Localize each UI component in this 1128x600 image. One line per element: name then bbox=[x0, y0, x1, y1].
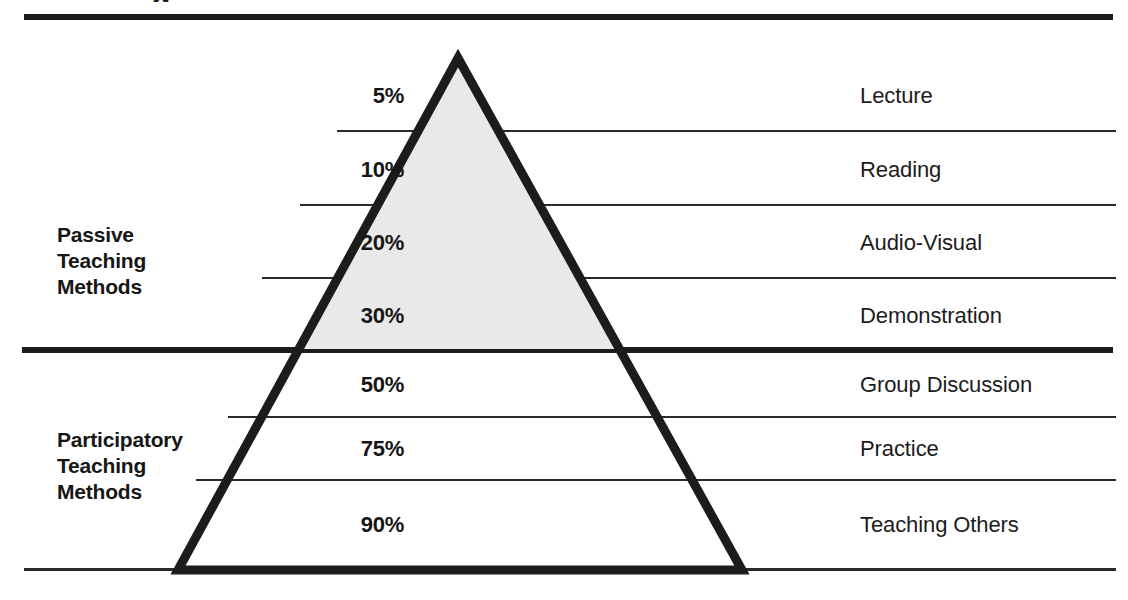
retention-percent: 30% bbox=[361, 303, 404, 329]
bottom-rule bbox=[24, 568, 1116, 571]
group-divider-rule bbox=[22, 347, 1113, 353]
retention-percent: 10% bbox=[361, 157, 404, 183]
row-rule-4 bbox=[228, 416, 1116, 418]
retention-percent: 50% bbox=[361, 372, 404, 398]
method-label: Group Discussion bbox=[860, 372, 1032, 398]
method-label: Reading bbox=[860, 157, 941, 183]
row-rule-5 bbox=[196, 479, 1116, 481]
method-label: Demonstration bbox=[860, 303, 1002, 329]
pyramid-shape bbox=[0, 0, 1128, 600]
group-label-passive: Passive Teaching Methods bbox=[57, 222, 146, 300]
retention-percent: 20% bbox=[361, 230, 404, 256]
retention-percent: 5% bbox=[373, 83, 404, 109]
method-label: Practice bbox=[860, 436, 939, 462]
row-rule-1 bbox=[337, 130, 1116, 132]
method-label: Audio-Visual bbox=[860, 230, 982, 256]
group-label-participatory: Participatory Teaching Methods bbox=[57, 427, 183, 505]
row-rule-2 bbox=[300, 204, 1116, 206]
row-rule-3 bbox=[262, 277, 1116, 279]
learning-pyramid-figure: g Passive Teaching Methods Participatory… bbox=[0, 0, 1128, 600]
method-label: Lecture bbox=[860, 83, 933, 109]
top-divider-rule bbox=[24, 14, 1113, 20]
cropped-title-text: g bbox=[152, 0, 170, 2]
method-label: Teaching Others bbox=[860, 512, 1019, 538]
retention-percent: 75% bbox=[361, 436, 404, 462]
retention-percent: 90% bbox=[361, 512, 404, 538]
